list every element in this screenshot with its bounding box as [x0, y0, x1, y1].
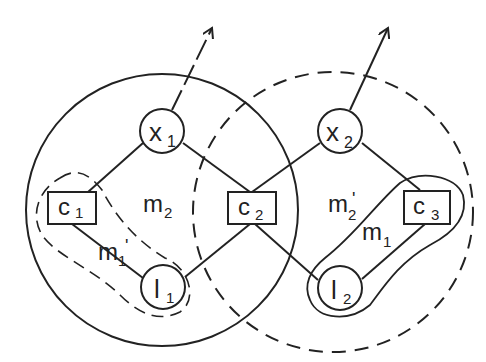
region-m1-main: m [362, 218, 382, 245]
node-c1-subscript: 1 [75, 204, 83, 221]
node-l2-label: l [331, 275, 337, 305]
diagram-canvas: x 1 x 2 c 1 c 2 c 3 l 1 l 2 m 2 m [0, 0, 486, 362]
node-c2-box [228, 192, 276, 224]
edge-c2-l2 [255, 224, 318, 280]
x2-output-arrow [350, 28, 388, 110]
region-label-m2: m 2 [143, 190, 172, 221]
edge-x2-c2 [252, 143, 320, 192]
node-l1-label: l [154, 274, 160, 304]
node-l1: l 1 [141, 265, 185, 309]
node-c3-subscript: 3 [431, 206, 439, 223]
edge-x1-c2 [183, 143, 250, 192]
node-l1-circle [141, 265, 185, 309]
region-m1-sub: 1 [383, 233, 391, 250]
region-m2-main: m [143, 190, 163, 217]
x1-output-arrow [172, 28, 212, 110]
node-x2: x 2 [318, 109, 362, 153]
edge-x1-c1 [88, 143, 143, 192]
region-label-m2-prime: m 2 ' [328, 189, 356, 223]
node-l1-subscript: 1 [166, 289, 174, 306]
node-c1: c 1 [48, 192, 96, 224]
region-m2-sub: 2 [164, 204, 172, 221]
region-label-m1: m 1 [362, 218, 391, 250]
node-c3: c 3 [404, 191, 450, 224]
node-l2-circle [318, 266, 362, 310]
node-x1-circle [140, 109, 184, 153]
node-x1-subscript: 1 [167, 133, 176, 150]
edge-x2-c3 [362, 143, 420, 190]
node-x1: x 1 [140, 109, 184, 153]
node-c2: c 2 [228, 192, 276, 224]
region-m1p-prime: ' [125, 236, 128, 256]
node-c2-label: c [238, 193, 250, 220]
node-l2-subscript: 2 [343, 290, 351, 307]
node-x2-label: x [326, 117, 339, 147]
region-m1p-main: m [98, 238, 118, 265]
node-c2-subscript: 2 [255, 206, 263, 223]
node-c3-label: c [413, 192, 425, 219]
node-c1-box [48, 192, 96, 224]
node-x1-label: x [149, 117, 162, 147]
node-x2-circle [318, 109, 362, 153]
node-x2-subscript: 2 [344, 134, 353, 151]
node-c1-label: c [58, 193, 70, 220]
region-label-m1-prime: m 1 ' [98, 236, 128, 269]
region-m2p-main: m [328, 190, 348, 217]
region-m2p-prime: ' [352, 189, 355, 209]
node-l2: l 2 [318, 266, 362, 310]
node-c3-box [404, 191, 450, 224]
